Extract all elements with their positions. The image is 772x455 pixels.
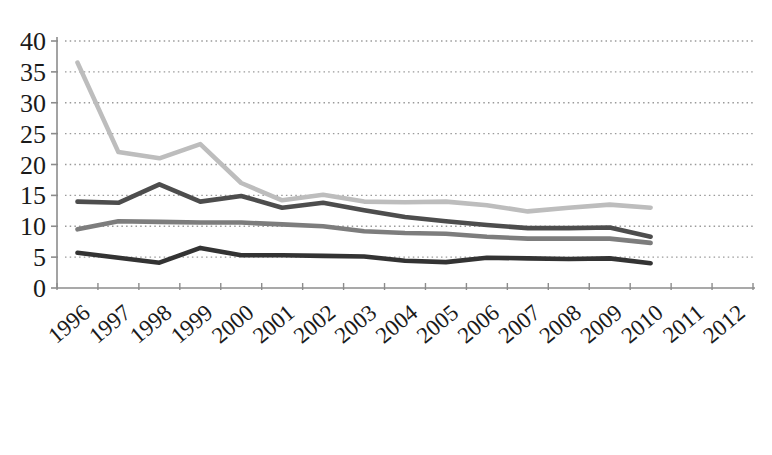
y-tick-label: 0 bbox=[33, 274, 46, 303]
x-tick-label-2001: 2001 bbox=[248, 300, 299, 349]
x-tick-label-2011: 2011 bbox=[658, 300, 709, 348]
x-tick-label-2004: 2004 bbox=[371, 299, 423, 348]
x-tick-label-2010: 2010 bbox=[617, 300, 668, 349]
x-tick-label-2012: 2012 bbox=[698, 300, 749, 349]
series-line-middle-income-countries bbox=[78, 184, 651, 236]
y-tick-label: 30 bbox=[20, 89, 46, 118]
x-tick-label-1997: 1997 bbox=[84, 300, 135, 349]
y-tick-label: 35 bbox=[20, 58, 46, 87]
x-tick-label-1996: 1996 bbox=[43, 300, 94, 349]
y-tick-label: 10 bbox=[20, 212, 46, 241]
line-chart: 0510152025303540199619971998199920002001… bbox=[0, 0, 772, 360]
series-line-high-income-countries bbox=[78, 248, 651, 263]
chart-legend: World High Income Countries Low Income c… bbox=[0, 360, 772, 455]
y-tick-label: 25 bbox=[20, 120, 46, 149]
x-tick-label-1999: 1999 bbox=[166, 300, 217, 349]
series-line-low-income-countries bbox=[78, 63, 651, 212]
x-tick-label-2008: 2008 bbox=[535, 300, 586, 349]
x-tick-label-2007: 2007 bbox=[494, 300, 545, 349]
x-tick-label-1998: 1998 bbox=[125, 300, 176, 349]
x-tick-label-2000: 2000 bbox=[207, 300, 258, 349]
series-line-world bbox=[78, 221, 651, 243]
x-tick-label-2003: 2003 bbox=[330, 300, 381, 349]
x-tick-label-2005: 2005 bbox=[412, 300, 463, 349]
y-tick-label: 40 bbox=[20, 27, 46, 56]
x-tick-label-2002: 2002 bbox=[289, 300, 340, 349]
y-tick-label: 5 bbox=[33, 243, 46, 272]
chart-figure: 0510152025303540199619971998199920002001… bbox=[0, 0, 772, 455]
y-tick-label: 15 bbox=[20, 181, 46, 210]
y-tick-label: 20 bbox=[20, 151, 46, 180]
x-tick-label-2009: 2009 bbox=[576, 300, 627, 349]
x-tick-label-2006: 2006 bbox=[453, 300, 504, 349]
